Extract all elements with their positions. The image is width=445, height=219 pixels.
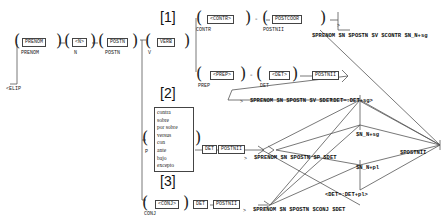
postnii-box[interactable]: POSTNII: [218, 145, 245, 154]
open-paren: (: [196, 10, 202, 26]
preposition-item[interactable]: ante: [157, 147, 191, 155]
open-paren: (: [262, 10, 268, 26]
det-label: DET: [260, 83, 269, 89]
open-paren: (: [142, 130, 148, 146]
contr-box[interactable]: <CONTR>: [207, 15, 234, 24]
preposition-item[interactable]: contra: [157, 109, 191, 117]
conj-label: CONJ: [144, 211, 156, 217]
verb-box[interactable]: VERB: [157, 38, 175, 47]
section-1-marker: [1]: [160, 10, 176, 24]
n-sg-agreement: $N_N+sg: [356, 132, 379, 138]
close-paren: ): [132, 33, 138, 49]
section-3-marker: [3]: [160, 174, 176, 188]
contr-label: CONTR: [196, 27, 211, 33]
output-contr: $PRENOM $N $POSTN $V $CONTR $N_N+sg: [312, 33, 428, 39]
preposition-item[interactable]: por sobre: [157, 124, 191, 132]
final-postnii-node: $POSTNII: [400, 150, 426, 156]
det-sg-agreement: <DET=:DET+sg>: [330, 98, 373, 104]
open-paren: (: [14, 33, 20, 49]
postnii-label: POSTNII: [263, 27, 284, 33]
dash: -: [255, 15, 258, 23]
prenom-label: PRENOM: [21, 50, 39, 56]
det-box[interactable]: DET: [202, 145, 217, 154]
open-paren: (: [64, 33, 70, 49]
arrow-marker: >: [243, 208, 246, 214]
arrow-marker: >: [244, 156, 247, 162]
output-conj: $PRENOM $N $POSTN $CONJ $DET: [253, 207, 345, 213]
det-pl-agreement: <DET=:DET+pl>: [325, 192, 368, 198]
close-paren: ): [90, 33, 96, 49]
postn-label: POSTN: [105, 50, 120, 56]
open-paren: (: [98, 33, 104, 49]
arrow-marker: >: [240, 99, 243, 105]
postcoor-box[interactable]: POSTCOOR: [272, 15, 302, 24]
dash: -: [250, 71, 253, 79]
open-paren: (: [196, 66, 202, 82]
det-box[interactable]: <DET>: [269, 71, 290, 80]
close-paren: ): [240, 66, 246, 82]
close-paren: ): [292, 66, 298, 82]
postnii-box[interactable]: POSTNII: [312, 71, 339, 80]
output-det: $PRENOM $N $POSTN $V $DET: [250, 98, 333, 104]
prep-label: PREP: [198, 83, 210, 89]
prep-box[interactable]: <PREP>: [210, 71, 234, 80]
close-paren: ): [56, 33, 62, 49]
preposition-item[interactable]: bajo: [157, 155, 191, 163]
preposition-item[interactable]: excepto: [157, 162, 191, 170]
p-label: P: [145, 149, 148, 155]
n-box[interactable]: <N>: [72, 38, 87, 47]
preposition-list[interactable]: contra sobre por sobre versus con ante b…: [154, 107, 194, 172]
preposition-item[interactable]: sobre: [157, 117, 191, 125]
arrow-marker: >: [337, 23, 340, 29]
close-paren: ): [320, 10, 326, 26]
conj-box[interactable]: <CONJ>: [155, 200, 179, 209]
v-label: V: [148, 50, 151, 56]
open-paren: (: [142, 195, 148, 211]
grammar-graph: <ELIP ( PRENOM PRENOM ) ( <N> N ) ( POST…: [0, 0, 445, 219]
section-2-marker: [2]: [160, 86, 176, 100]
open-paren: (: [256, 66, 262, 82]
prenom-box[interactable]: PRENOM: [22, 38, 46, 47]
open-paren: (: [145, 33, 151, 49]
close-paren: ): [184, 33, 190, 49]
preposition-item[interactable]: con: [157, 139, 191, 147]
postn-box[interactable]: POSTN: [107, 38, 128, 47]
det-box[interactable]: DET: [193, 200, 208, 209]
elip-node-label: <ELIP: [6, 86, 21, 92]
output-p: $PRENOM $N $POSTN $P $DET: [254, 155, 337, 161]
close-paren: ): [245, 10, 251, 26]
postnii-box[interactable]: POSTNII: [213, 200, 240, 209]
close-paren: ): [195, 130, 201, 146]
close-paren: ): [183, 195, 189, 211]
n-label: N: [74, 50, 77, 56]
n-pl-agreement: $N_N+pl: [356, 165, 379, 171]
preposition-item[interactable]: versus: [157, 132, 191, 140]
